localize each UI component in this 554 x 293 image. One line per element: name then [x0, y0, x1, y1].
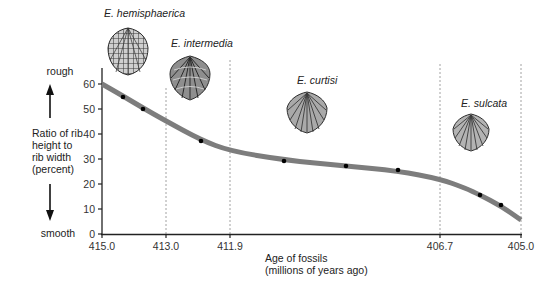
y-tick-label: 50 — [83, 103, 95, 115]
ylabel-line-1: Ratio of rib — [32, 127, 83, 139]
shell-curtisi-icon — [287, 92, 327, 133]
y-tick-label: 20 — [83, 178, 95, 190]
y-tick-label: 30 — [83, 153, 95, 165]
shell-intermedia-icon — [170, 56, 210, 100]
xlabel-line-2: (millions of years ago) — [265, 264, 368, 276]
y-axis-label: rough Ratio of rib height to rib width (… — [32, 65, 83, 239]
x-tick-label: 413.0 — [153, 240, 179, 252]
rough-label: rough — [47, 65, 74, 77]
shell-hemisphaerica-icon — [108, 28, 148, 75]
xlabel-line-1: Age of fossils — [265, 252, 327, 264]
x-axis-label: Age of fossils (millions of years ago) — [265, 252, 368, 276]
smooth-label: smooth — [41, 227, 76, 239]
x-tick-label: 415.0 — [89, 240, 115, 252]
species-label-intermedia: E. intermedia — [171, 37, 233, 49]
data-point — [478, 193, 483, 198]
ylabel-line-3: rib width — [32, 151, 71, 163]
x-tick-label: 406.7 — [427, 240, 453, 252]
x-axis: 415.0413.0411.9406.7405.0 — [89, 234, 534, 252]
y-axis: 0102030405060 — [83, 68, 102, 240]
y-tick-label: 10 — [83, 203, 95, 215]
ylabel-line-4: (percent) — [32, 163, 74, 175]
y-tick-label: 60 — [83, 78, 95, 90]
data-point — [121, 95, 126, 100]
fossil-rib-ratio-chart: 0102030405060 415.0413.0411.9406.7405.0 … — [0, 0, 554, 293]
up-arrow-head-icon — [46, 84, 54, 95]
down-arrow-head-icon — [46, 210, 54, 221]
shell-sulcata-icon — [453, 114, 489, 151]
species-label-hemisphaerica: E. hemisphaerica — [104, 7, 185, 19]
ylabel-line-2: height to — [32, 139, 72, 151]
x-tick-label: 405.0 — [508, 240, 534, 252]
data-point — [199, 139, 204, 144]
y-tick-label: 40 — [83, 128, 95, 140]
data-point — [141, 107, 146, 112]
x-tick-label: 411.9 — [217, 240, 243, 252]
data-point — [396, 168, 401, 173]
y-tick-label: 0 — [89, 228, 95, 240]
data-point — [344, 164, 349, 169]
species-label-curtisi: E. curtisi — [297, 74, 338, 86]
species-label-sulcata: E. sulcata — [461, 97, 507, 109]
data-point — [499, 203, 504, 208]
data-point — [282, 159, 287, 164]
